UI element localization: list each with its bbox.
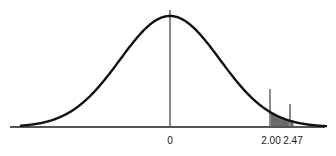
tick-label-2-47: 2.47 [283,136,302,146]
normal-curve-plot [0,0,336,156]
normal-curve-figure: 0 2.00 2.47 [0,0,336,156]
tick-lines-group [170,10,290,127]
tick-label-2-00: 2.00 [261,136,280,146]
bell-curve-line [21,16,326,126]
tick-label-0: 0 [167,136,173,146]
